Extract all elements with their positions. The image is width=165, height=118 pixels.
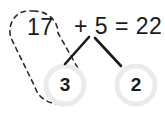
- number-bond-diagram: 17 + 5 = 22 3 2: [0, 0, 165, 118]
- part-right-value: 2: [114, 75, 158, 94]
- part-node-right: 2: [114, 63, 158, 107]
- part-left-value: 3: [43, 75, 87, 94]
- connector-to-left-part: [65, 37, 89, 64]
- equation-plus-5-equals-22: + 5 = 22: [74, 15, 162, 38]
- first-addend-17: 17: [27, 16, 54, 39]
- part-node-left: 3: [43, 63, 87, 107]
- connector-to-right-part: [95, 38, 121, 66]
